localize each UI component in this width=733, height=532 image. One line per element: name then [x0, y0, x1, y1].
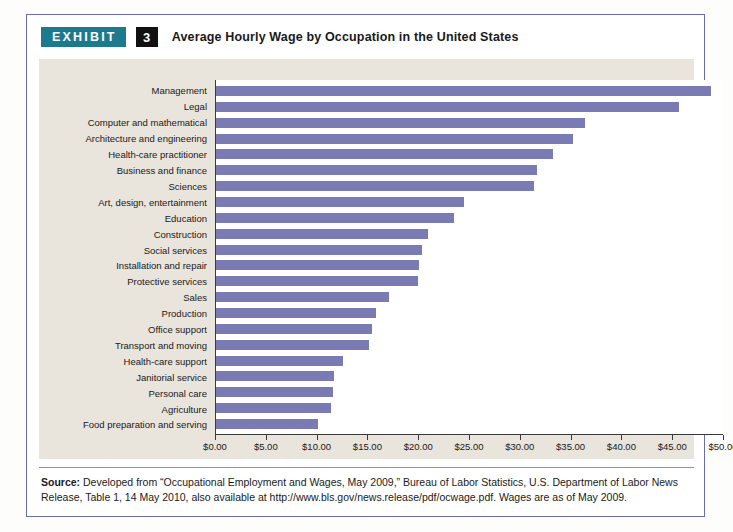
- axis-tick-label: $20.00: [404, 441, 433, 452]
- category-label: Management: [39, 84, 213, 97]
- bar: [216, 387, 333, 397]
- category-label: Agriculture: [39, 403, 213, 416]
- bar: [216, 260, 419, 270]
- category-label: Food preparation and serving: [39, 418, 213, 431]
- bar: [216, 229, 428, 239]
- bar: [216, 118, 585, 128]
- category-label: Sales: [39, 291, 213, 304]
- bar-row: [216, 322, 723, 335]
- value-axis: $0.00$5.00$10.00$15.00$20.00$25.00$30.00…: [215, 435, 723, 459]
- bar-row: [216, 402, 723, 415]
- bar: [216, 134, 573, 144]
- axis-tick: [367, 435, 368, 440]
- category-label: Social services: [39, 244, 213, 257]
- bar-row: [216, 243, 723, 256]
- axis-tick: [418, 435, 419, 440]
- bar-row: [216, 148, 723, 161]
- bar: [216, 165, 537, 175]
- category-label: Legal: [39, 100, 213, 113]
- bar-row: [216, 354, 723, 367]
- axis-tick: [571, 435, 572, 440]
- plot-area: [215, 80, 723, 435]
- category-label: Installation and repair: [39, 259, 213, 272]
- category-axis-labels: ManagementLegalComputer and mathematical…: [39, 80, 213, 435]
- bar-row: [216, 211, 723, 224]
- category-label: Health-care practitioner: [39, 148, 213, 161]
- bar: [216, 324, 372, 334]
- category-label: Construction: [39, 228, 213, 241]
- category-label: Transport and moving: [39, 339, 213, 352]
- axis-tick-label: $10.00: [302, 441, 331, 452]
- category-label: Personal care: [39, 387, 213, 400]
- chart-panel: ManagementLegalComputer and mathematical…: [39, 59, 694, 459]
- bar: [216, 276, 418, 286]
- category-label: Business and finance: [39, 164, 213, 177]
- bar: [216, 308, 376, 318]
- axis-tick: [469, 435, 470, 440]
- bar: [216, 86, 711, 96]
- axis-tick-label: $5.00: [254, 441, 278, 452]
- bar-row: [216, 259, 723, 272]
- bar-row: [216, 370, 723, 383]
- exhibit-header: EXHIBIT 3 Average Hourly Wage by Occupat…: [27, 15, 704, 59]
- axis-tick-label: $40.00: [607, 441, 636, 452]
- category-label: Architecture and engineering: [39, 132, 213, 145]
- category-label: Education: [39, 212, 213, 225]
- axis-tick-label: $30.00: [505, 441, 534, 452]
- page-background: EXHIBIT 3 Average Hourly Wage by Occupat…: [0, 0, 733, 532]
- axis-tick: [672, 435, 673, 440]
- bar: [216, 292, 389, 302]
- category-label: Art, design, entertainment: [39, 196, 213, 209]
- bar: [216, 403, 331, 413]
- category-label: Sciences: [39, 180, 213, 193]
- bar-row: [216, 417, 723, 430]
- axis-tick-label: $45.00: [658, 441, 687, 452]
- bar: [216, 371, 334, 381]
- axis-tick: [266, 435, 267, 440]
- bar-row: [216, 386, 723, 399]
- bar-row: [216, 84, 723, 97]
- bar-row: [216, 195, 723, 208]
- category-label: Protective services: [39, 275, 213, 288]
- bar: [216, 356, 343, 366]
- bar: [216, 245, 422, 255]
- bar-row: [216, 338, 723, 351]
- axis-tick-label: $50.00: [708, 441, 733, 452]
- bar: [216, 149, 553, 159]
- category-label: Janitorial service: [39, 371, 213, 384]
- axis-tick: [317, 435, 318, 440]
- category-label: Computer and mathematical: [39, 116, 213, 129]
- axis-tick: [621, 435, 622, 440]
- source-divider: [39, 467, 694, 468]
- axis-tick: [520, 435, 521, 440]
- exhibit-box: EXHIBIT 3 Average Hourly Wage by Occupat…: [26, 14, 705, 517]
- bar: [216, 340, 369, 350]
- axis-tick-label: $25.00: [454, 441, 483, 452]
- category-label: Health-care support: [39, 355, 213, 368]
- bar-row: [216, 227, 723, 240]
- bar: [216, 102, 679, 112]
- axis-tick: [215, 435, 216, 440]
- axis-tick: [723, 435, 724, 440]
- bar: [216, 213, 454, 223]
- bar-row: [216, 100, 723, 113]
- source-text: Developed from “Occupational Employment …: [41, 476, 678, 503]
- bar-row: [216, 180, 723, 193]
- exhibit-badge: EXHIBIT: [41, 27, 126, 48]
- bar-rows: [216, 80, 723, 434]
- bar: [216, 419, 318, 429]
- category-label: Office support: [39, 323, 213, 336]
- bar-row: [216, 132, 723, 145]
- axis-tick-label: $15.00: [353, 441, 382, 452]
- axis-tick-label: $35.00: [556, 441, 585, 452]
- bar-row: [216, 275, 723, 288]
- bar-row: [216, 291, 723, 304]
- axis-tick-label: $0.00: [203, 441, 227, 452]
- exhibit-number-badge: 3: [136, 27, 158, 47]
- bar-row: [216, 116, 723, 129]
- bar: [216, 197, 464, 207]
- bar-row: [216, 306, 723, 319]
- bar: [216, 181, 534, 191]
- source-note: Source: Developed from “Occupational Emp…: [41, 475, 693, 505]
- bar-row: [216, 164, 723, 177]
